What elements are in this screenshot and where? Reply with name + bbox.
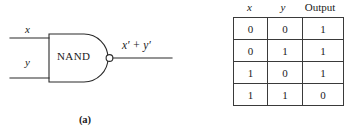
table-row: 1 0 1 [234, 62, 344, 84]
cell-x: 1 [234, 84, 268, 106]
table-row: 0 0 1 [234, 18, 344, 40]
panel-b-truth-table: x y Output 0 0 1 0 1 1 1 0 1 [200, 0, 355, 137]
cell-output: 1 [303, 62, 344, 84]
output-expression-label: x′ + y′ [122, 40, 151, 52]
panel-a-gate-diagram: x y NAND x′ + y′ (a) [0, 0, 200, 137]
cell-y: 1 [268, 84, 303, 106]
cell-y: 1 [268, 40, 303, 62]
input-label-y: y [25, 57, 30, 68]
table-row: 1 1 0 [234, 84, 344, 106]
figure-root: x y NAND x′ + y′ (a) x y Output 0 0 1 0 … [0, 0, 355, 137]
caption-a: (a) [60, 115, 110, 126]
cell-y: 0 [268, 62, 303, 84]
truth-table-header-row: x y Output [233, 2, 340, 16]
cell-x: 0 [234, 18, 268, 40]
column-header-y: y [266, 2, 300, 13]
cell-y: 0 [268, 18, 303, 40]
table-row: 0 1 1 [234, 40, 344, 62]
cell-x: 0 [234, 40, 268, 62]
cell-output: 0 [303, 84, 344, 106]
gate-name-label: NAND [57, 51, 90, 62]
input-label-x: x [25, 24, 30, 35]
column-header-output: Output [300, 2, 340, 13]
column-header-x: x [233, 2, 266, 13]
cell-x: 1 [234, 62, 268, 84]
inversion-bubble [106, 55, 113, 62]
truth-table: 0 0 1 0 1 1 1 0 1 1 1 0 [233, 17, 344, 106]
cell-output: 1 [303, 18, 344, 40]
cell-output: 1 [303, 40, 344, 62]
